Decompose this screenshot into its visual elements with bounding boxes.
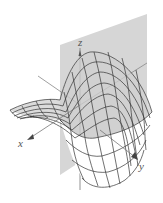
z-axis-label: z <box>77 36 83 48</box>
x-axis-arrow-icon <box>27 134 34 140</box>
saddle-surface-figure: x y z <box>0 0 163 203</box>
y-axis-label: y <box>138 160 144 172</box>
x-axis-label: x <box>17 137 23 149</box>
